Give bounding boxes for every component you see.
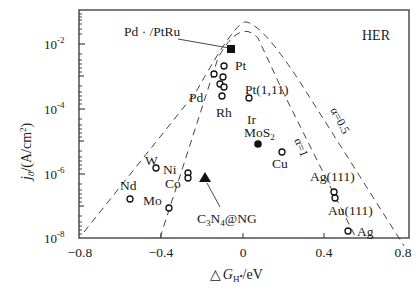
label-ag111: Ag(111) [310,169,355,184]
marker-pt [221,63,227,69]
ytick-1e-4: 10-4 [44,100,65,117]
marker-pt-b [220,74,226,80]
label-pt: Pt [235,58,247,73]
xtick-0.8: 0.8 [395,245,412,260]
label-alpha-0.5: α=0.5 [327,105,353,136]
marker-ag111 [331,189,337,195]
marker-rh-a [221,84,227,90]
marker-nd [127,196,133,202]
open-circle-markers [127,63,351,234]
marker-c3n4ng [199,172,211,182]
label-alpha-1: α=1 [291,136,311,159]
ytick-1e-8: 10-8 [44,229,65,246]
label-mo: Mo [143,193,162,208]
label-ni: Ni [163,162,177,177]
marker-mo [166,205,172,211]
label-w: W [145,153,158,168]
marker-ag [345,228,351,234]
label-pdptru: Pd · /PtRu [124,24,181,39]
marker-mos2 [254,140,262,148]
label-au111: Au(111) [328,203,373,218]
marker-cu [279,149,285,155]
label-cu: Cu [272,156,288,171]
y-tick-labels: 10-2 10-4 10-6 10-8 [44,35,65,246]
label-mos2: MoS2 [244,125,275,142]
x-axis-label: △GH•/eV [210,267,263,284]
label-c3n4ng: C3N4@NG [197,211,257,228]
marker-co [185,175,191,181]
y-axis-label: j0/(A/cm2) [18,122,36,182]
label-nd: Nd [120,178,137,193]
xtick-m0.4: −0.4 [149,245,174,260]
marker-pdptru [227,45,235,53]
label-ag: Ag [357,224,374,239]
label-rh: Rh [216,105,232,120]
xtick-0: 0 [240,245,247,260]
volcano-plot: Pd · /PtRu Pt Pd Rh Pt(1,11) Ir MoS2 Cu … [0,0,416,291]
ytick-1e-6: 10-6 [44,165,65,182]
marker-au111 [332,195,338,201]
x-ticks [161,233,324,238]
xtick-m0.8: −0.8 [68,245,93,260]
x-tick-labels: −0.8 −0.4 0 0.4 0.8 [68,245,412,260]
xtick-0.4: 0.4 [316,245,333,260]
marker-pd-a [211,71,217,77]
her-label: HER [362,28,391,43]
ytick-1e-2: 10-2 [44,35,65,52]
marker-rh-b [219,93,225,99]
label-co: Co [165,176,181,191]
label-pd: Pd [189,90,204,105]
point-labels: Pd · /PtRu Pt Pd Rh Pt(1,11) Ir MoS2 Cu … [120,24,374,239]
label-pt111: Pt(1,11) [245,82,288,97]
